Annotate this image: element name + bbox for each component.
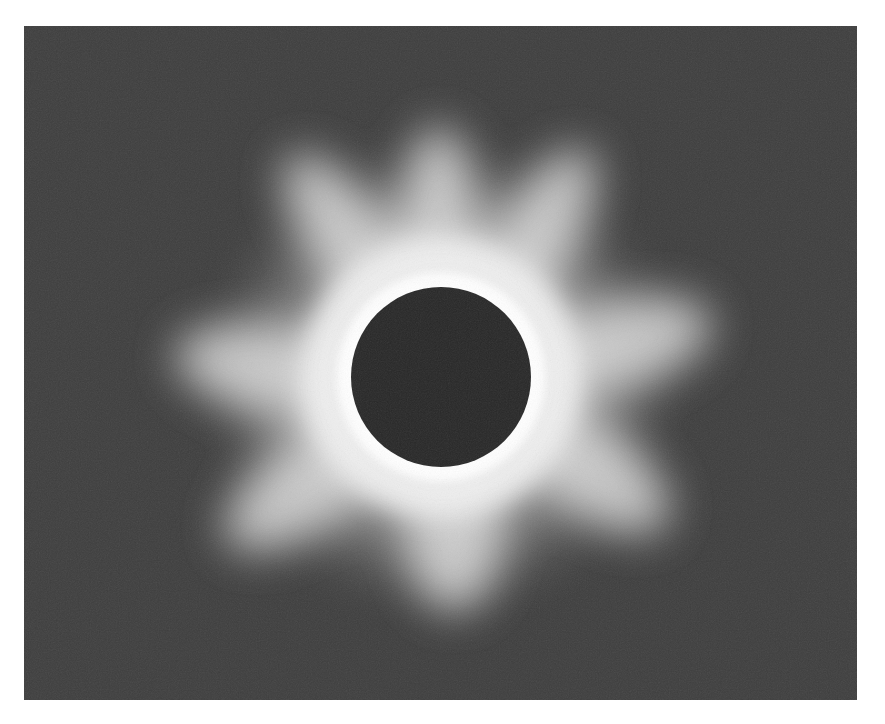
eclipse-illustration <box>24 26 857 700</box>
eclipse-photo <box>24 26 857 700</box>
film-grain <box>24 26 857 700</box>
